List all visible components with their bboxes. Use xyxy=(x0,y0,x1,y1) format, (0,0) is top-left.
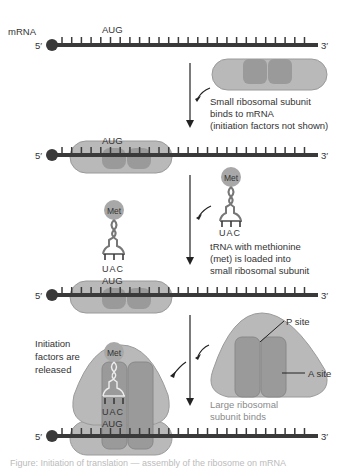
aug-codon-label: AUG xyxy=(102,24,123,35)
five-prime-label: 5′ xyxy=(35,150,42,161)
aug-codon-label: AUG xyxy=(102,135,123,146)
aug-codon-label: AUG xyxy=(102,275,123,286)
three-prime-label: 3′ xyxy=(321,150,328,161)
met-label: Met xyxy=(224,173,239,183)
large-subunit-free: P site A site xyxy=(211,313,331,397)
a-site-label: A site xyxy=(308,368,331,379)
p-site-label: P site xyxy=(286,316,310,327)
step-2-text-2: (met) is loaded into xyxy=(210,253,291,264)
step-2-text-3: small ribosomal subunit xyxy=(210,265,310,276)
three-prime-label: 3′ xyxy=(321,431,328,442)
aug-codon-label: AUG xyxy=(102,418,123,429)
mrna-label: mRNA xyxy=(8,26,37,37)
five-prime-label: 5′ xyxy=(35,40,42,51)
uac-anticodon-label: UAC xyxy=(219,228,241,238)
bind-arrow-1 xyxy=(198,88,210,98)
step-2-text-1: tRNA with methionine xyxy=(210,241,301,252)
initiation-text-1: Initiation xyxy=(35,338,70,349)
join-arrow-a xyxy=(198,345,209,356)
step-1-text-1: Small ribosomal subunit xyxy=(210,96,311,107)
join-arrow-b xyxy=(174,362,186,374)
step-1-text-2: binds to mRNA xyxy=(210,108,275,119)
trna-free: Met UAC xyxy=(219,167,242,238)
three-prime-label: 3′ xyxy=(321,40,328,51)
step-3-text-1: Large ribosomal xyxy=(210,399,278,410)
met-label: Met xyxy=(107,348,122,358)
step-1-text-3: (initiation factors not shown) xyxy=(210,120,328,131)
initiation-text-2: factors are xyxy=(35,351,80,362)
small-subunit-free xyxy=(212,59,327,90)
initiation-text-3: released xyxy=(35,364,71,375)
assembled-ribosome: Met UAC AUG xyxy=(70,342,172,455)
three-prime-label: 3′ xyxy=(321,290,328,301)
step-3-text-2: subunit binds xyxy=(210,411,266,422)
met-label: Met xyxy=(107,206,122,216)
trna-loaded: Met UAC AUG xyxy=(102,200,125,286)
mrna-strand-1: mRNA 5′ 3′ AUG xyxy=(8,24,328,51)
uac-anticodon-label: UAC xyxy=(102,407,124,417)
load-arrow xyxy=(199,206,211,216)
translation-initiation-diagram: mRNA 5′ 3′ AUG Small ribosomal subunit b… xyxy=(0,0,353,468)
figure-caption: Figure: Initiation of translation — asse… xyxy=(10,458,286,468)
five-prime-label: 5′ xyxy=(35,290,42,301)
uac-anticodon-label: UAC xyxy=(102,264,124,274)
five-prime-label: 5′ xyxy=(35,431,42,442)
